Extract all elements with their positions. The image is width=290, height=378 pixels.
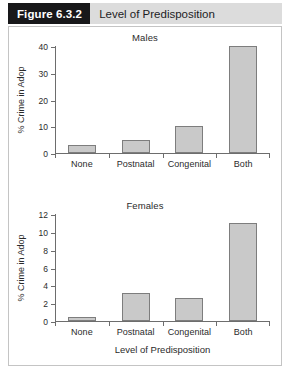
y-tick-females bbox=[51, 251, 55, 252]
y-tick-label-males: 40 bbox=[39, 42, 48, 52]
y-tick-label-females: 8 bbox=[43, 246, 48, 256]
y-axis-line-females bbox=[55, 214, 56, 322]
chart-panel-females: Females % Crime in Adop 024681012NonePos… bbox=[9, 197, 281, 365]
bar-females-both bbox=[229, 223, 257, 321]
y-tick-males bbox=[51, 127, 55, 128]
y-tick-label-females: 10 bbox=[39, 228, 48, 238]
y-tick-label-males: 10 bbox=[39, 122, 48, 132]
x-tick-females bbox=[109, 322, 110, 326]
y-tick-label-females: 2 bbox=[43, 299, 48, 309]
x-tick-label-females-postnatal: Postnatal bbox=[117, 327, 155, 337]
y-tick-females bbox=[51, 286, 55, 287]
x-tick-females bbox=[55, 322, 56, 326]
x-tick-females bbox=[216, 322, 217, 326]
x-tick-label-males-both: Both bbox=[234, 159, 253, 169]
y-tick-label-males: 30 bbox=[39, 69, 48, 79]
x-tick-label-males-congenital: Congenital bbox=[168, 159, 211, 169]
x-axis-title-females: Level of Predisposition bbox=[55, 344, 270, 355]
figure-number-tag: Figure 6.3.2 bbox=[8, 3, 90, 24]
y-tick-females bbox=[51, 304, 55, 305]
y-tick-females bbox=[51, 215, 55, 216]
y-tick-females bbox=[51, 233, 55, 234]
x-tick-label-females-none: None bbox=[71, 327, 93, 337]
plot-area-males: 010203040NonePostnatalCongenitalBoth bbox=[55, 46, 270, 154]
x-tick-females bbox=[269, 322, 270, 326]
chart-title-females: Females bbox=[9, 200, 281, 211]
bar-males-none bbox=[68, 145, 96, 153]
y-axis-label-females: % Crime in Adop bbox=[15, 214, 27, 322]
bar-females-none bbox=[68, 317, 96, 321]
y-tick-label-males: 20 bbox=[39, 96, 48, 106]
bar-males-postnatal bbox=[122, 140, 150, 153]
y-axis-label-females-text: % Crime in Adop bbox=[16, 234, 26, 301]
y-tick-males bbox=[51, 101, 55, 102]
y-axis-line-males bbox=[55, 46, 56, 154]
x-tick-label-females-congenital: Congenital bbox=[168, 327, 211, 337]
y-tick-males bbox=[51, 74, 55, 75]
x-tick-males bbox=[216, 154, 217, 158]
bar-females-congenital bbox=[175, 298, 203, 321]
x-tick-males bbox=[163, 154, 164, 158]
bar-males-congenital bbox=[175, 126, 203, 153]
bar-males-both bbox=[229, 46, 257, 153]
x-tick-females bbox=[163, 322, 164, 326]
x-tick-males bbox=[55, 154, 56, 158]
y-axis-label-males: % Crime in Adop bbox=[15, 46, 27, 154]
figure-header: Figure 6.3.2 Level of Predisposition bbox=[8, 3, 282, 24]
y-tick-males bbox=[51, 47, 55, 48]
y-tick-label-females: 0 bbox=[43, 317, 48, 327]
y-axis-label-males-text: % Crime in Adop bbox=[16, 66, 26, 133]
figure-caption: Level of Predisposition bbox=[90, 3, 282, 24]
y-tick-label-males: 0 bbox=[43, 149, 48, 159]
y-tick-label-females: 12 bbox=[39, 210, 48, 220]
bar-females-postnatal bbox=[122, 293, 150, 321]
figure-container: Figure 6.3.2 Level of Predisposition Mal… bbox=[0, 0, 290, 378]
y-tick-females bbox=[51, 269, 55, 270]
chart-title-males: Males bbox=[9, 32, 281, 43]
y-tick-label-females: 4 bbox=[43, 281, 48, 291]
x-tick-label-males-postnatal: Postnatal bbox=[117, 159, 155, 169]
x-tick-males bbox=[269, 154, 270, 158]
x-tick-label-females-both: Both bbox=[234, 327, 253, 337]
figure-body: Males % Crime in Adop 010203040NonePostn… bbox=[8, 26, 282, 366]
x-tick-label-males-none: None bbox=[71, 159, 93, 169]
chart-panel-males: Males % Crime in Adop 010203040NonePostn… bbox=[9, 29, 281, 197]
y-tick-label-females: 6 bbox=[43, 264, 48, 274]
plot-area-females: 024681012NonePostnatalCongenitalBoth bbox=[55, 214, 270, 322]
x-tick-males bbox=[109, 154, 110, 158]
